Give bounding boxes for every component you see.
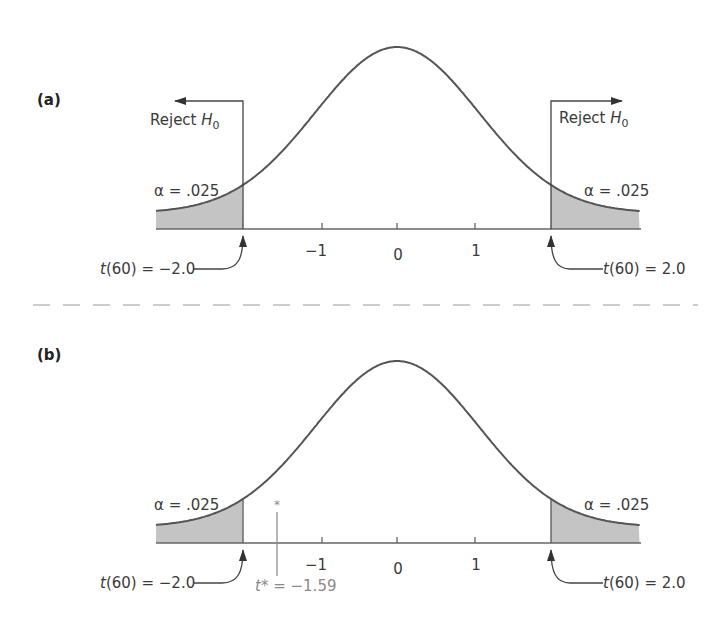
- observed-t-marker: *: [274, 498, 280, 512]
- reject-left-label: Reject H0: [150, 111, 220, 132]
- panel-label: (b): [37, 346, 61, 364]
- crit-left-label: t(60) = −2.0: [100, 574, 195, 592]
- tick-label: −1: [305, 242, 327, 260]
- reject-right-label: Reject H0: [559, 109, 629, 130]
- alpha-right-label: α = .025: [584, 182, 649, 200]
- crit-right-pointer: [551, 236, 603, 269]
- crit-right-label: t(60) = 2.0: [603, 574, 686, 592]
- tick-label: −1: [305, 556, 327, 574]
- alpha-right-label: α = .025: [584, 496, 649, 514]
- crit-right-pointer: [551, 550, 603, 583]
- alpha-left-label: α = .025: [154, 182, 219, 200]
- crit-left-label: t(60) = −2.0: [100, 260, 195, 278]
- tick-label: 0: [393, 560, 403, 578]
- panel-label: (a): [37, 91, 61, 109]
- distribution-curve: [156, 361, 640, 525]
- crit-left-pointer: [194, 550, 243, 583]
- figure: (a) −1 0 1 Reject H0 Reject H0 α = .025 …: [0, 0, 723, 633]
- tick-label: 1: [471, 242, 481, 260]
- panel-b: (b) −1 0 1 α = .025 α = .025 * t* = −1.5…: [37, 346, 686, 595]
- crit-right-label: t(60) = 2.0: [603, 260, 686, 278]
- tick-label: 0: [393, 246, 403, 264]
- tick-label: 1: [471, 556, 481, 574]
- panel-a: (a) −1 0 1 Reject H0 Reject H0 α = .025 …: [37, 47, 686, 278]
- crit-left-pointer: [194, 236, 243, 269]
- distribution-curve: [156, 47, 640, 211]
- alpha-left-label: α = .025: [154, 496, 219, 514]
- observed-t-label: t* = −1.59: [255, 577, 336, 595]
